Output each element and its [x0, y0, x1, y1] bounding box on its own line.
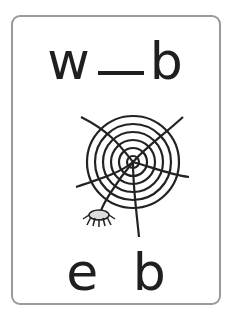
incomplete-word: wb [13, 31, 219, 91]
missing-letter-blank [98, 71, 144, 75]
word-letter-first: w [47, 31, 92, 91]
choice-letter-b[interactable]: b [133, 242, 166, 302]
spider-web-icon [51, 97, 191, 237]
word-letter-last: b [150, 31, 185, 91]
word-card: wb e b [11, 15, 221, 305]
letter-choices: e b [13, 242, 219, 302]
choice-letter-e[interactable]: e [66, 242, 98, 302]
spider-icon [83, 210, 115, 227]
